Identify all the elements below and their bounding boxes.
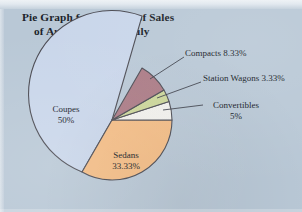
leader-line-compacts [150, 57, 184, 79]
pie-label-sedans-value: 33.33% [98, 161, 154, 172]
pie-label-convertibles-value: 5% [205, 111, 267, 122]
pie-label-compacts: Compacts 8.33% [185, 48, 247, 59]
pie-chart-figure: Pie Graph for Number of Sales of Automob… [0, 0, 302, 212]
pie-label-station-wagons: Station Wagons 3.33% [203, 73, 285, 84]
pie-label-convertibles-name: Convertibles [205, 100, 267, 111]
pie-label-coupes-name: Coupes [40, 104, 92, 115]
pie-label-coupes-value: 50% [40, 115, 92, 126]
pie-label-sedans-name: Sedans [98, 150, 154, 161]
pie-label-coupes: Coupes 50% [40, 104, 92, 125]
pie-label-sedans: Sedans 33.33% [98, 150, 154, 171]
pie-label-convertibles: Convertibles 5% [205, 100, 267, 121]
